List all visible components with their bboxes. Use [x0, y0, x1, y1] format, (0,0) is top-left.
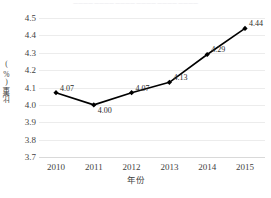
- data-point-marker: [129, 90, 134, 95]
- series-markers: [53, 26, 247, 108]
- gridline: [39, 157, 265, 158]
- data-point-label: 4.07: [136, 85, 150, 93]
- x-axis-tick-labels: 201020112012201320142015: [0, 162, 271, 174]
- x-axis-title: 年份: [0, 175, 271, 185]
- data-point-label: 4.44: [249, 20, 263, 28]
- x-axis-tick-label: 2010: [47, 162, 65, 172]
- data-point-label: 4.29: [211, 46, 225, 54]
- page-bleed-text: 一一一一一一一一一一一一一一一一一一一一一一一一: [0, 0, 271, 8]
- data-point-label: 4.07: [60, 85, 74, 93]
- x-axis-tick-label: 2015: [236, 162, 254, 172]
- y-axis-tick-label: 4.4: [25, 31, 36, 40]
- data-point-label: 4.00: [98, 107, 112, 115]
- data-point-label: 4.13: [173, 74, 187, 82]
- y-axis-tick-label: 4.5: [25, 14, 36, 23]
- y-axis-tick-label: 3.9: [25, 118, 36, 127]
- y-axis-tick-label: 4.0: [25, 100, 36, 109]
- y-axis-tick-label: 4.3: [25, 48, 36, 57]
- y-axis-tick-label: 4.1: [25, 83, 36, 92]
- x-axis-tick-label: 2011: [85, 162, 103, 172]
- x-axis-tick-label: 2013: [160, 162, 178, 172]
- y-axis-tick-label: 3.8: [25, 135, 36, 144]
- data-point-marker: [91, 102, 96, 107]
- data-point-marker: [53, 90, 58, 95]
- y-axis-tick-label: 3.7: [25, 153, 36, 162]
- x-axis-tick-label: 2014: [198, 162, 216, 172]
- x-axis-tick-label: 2012: [123, 162, 141, 172]
- series-polyline: [56, 28, 245, 104]
- line-chart: 一一一一一一一一一一一一一一一一一一一一一一一一 比重(%) 4.54.44.3…: [0, 0, 271, 198]
- y-axis-tick-label: 4.2: [25, 66, 36, 75]
